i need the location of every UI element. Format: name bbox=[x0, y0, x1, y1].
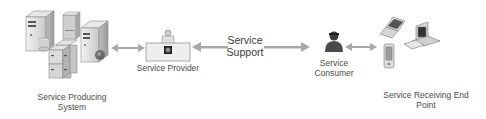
endpoint-label-line1: Service Receiving End bbox=[376, 90, 476, 100]
producing-system-label: Service Producing System bbox=[28, 92, 116, 112]
server-cluster-icon bbox=[26, 11, 108, 78]
consumer-label-line2: Consumer bbox=[312, 68, 356, 78]
arrow-consumer-endpoint bbox=[345, 43, 377, 51]
service-provider-desk-icon bbox=[146, 30, 190, 61]
service-support-label: Service Support bbox=[220, 34, 270, 58]
producing-label-line2: System bbox=[28, 102, 116, 112]
person-icon bbox=[325, 32, 343, 53]
diagram-canvas: Service Producing System Service Provide… bbox=[0, 0, 486, 119]
service-consumer-label: Service Consumer bbox=[312, 58, 356, 78]
endpoint-label-line2: Point bbox=[376, 100, 476, 110]
consumer-label-line1: Service bbox=[312, 58, 356, 68]
endpoint-label: Service Receiving End Point bbox=[376, 90, 476, 110]
producing-label-line1: Service Producing bbox=[28, 92, 116, 102]
service-provider-label: Service Provider bbox=[133, 63, 203, 73]
arrow-producing-provider bbox=[111, 44, 145, 52]
devices-icon bbox=[380, 17, 440, 68]
support-label-line2: Support bbox=[220, 46, 270, 58]
support-label-line1: Service bbox=[220, 34, 270, 46]
